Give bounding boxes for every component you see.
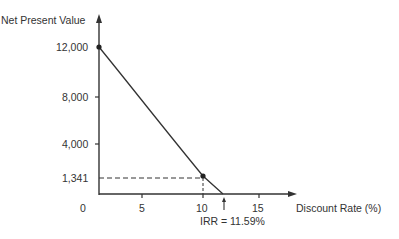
x-axis-label: Discount Rate (%) [296, 202, 381, 214]
y-tick-label-8000: 8,000 [62, 91, 88, 103]
x-tick-label-5: 5 [139, 202, 145, 214]
x-tick-label-10: 10 [196, 202, 208, 214]
x-tick-label-15: 15 [252, 202, 264, 214]
y-tick-label-4000: 4,000 [62, 138, 88, 150]
y-tick-label-1341: 1,341 [62, 172, 88, 184]
y-axis-arrow-icon [96, 14, 102, 23]
irr-annotation: IRR = 11.59% [200, 215, 265, 227]
y-tick-label-12000: 12,000 [56, 41, 88, 53]
irr-arrow-head-icon [222, 197, 226, 202]
npv-curve [99, 47, 223, 194]
y-axis-label: Net Present Value [1, 14, 85, 26]
y-tick-label-0: 0 [80, 202, 86, 214]
data-point-1341 [200, 173, 205, 178]
x-axis-arrow-icon [288, 191, 297, 197]
data-point-12000 [96, 44, 101, 49]
